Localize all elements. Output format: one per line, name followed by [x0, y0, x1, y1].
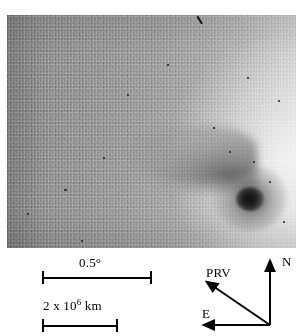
- field-star: [269, 181, 271, 183]
- angular-scale-cap-right: [150, 271, 152, 284]
- field-star: [127, 94, 129, 96]
- comet-figure: 0.5° 2 x 106 km N E PRV: [0, 0, 304, 336]
- field-star: [167, 64, 169, 66]
- comet-nucleus: [236, 187, 264, 211]
- linear-scale-cap-right: [116, 319, 118, 332]
- linear-scale-label: 2 x 106 km: [43, 298, 102, 312]
- linear-scale-bar: [42, 325, 118, 327]
- prv-label: PRV: [206, 266, 231, 279]
- linear-scale-exponent: 6: [77, 297, 82, 307]
- field-star: [103, 157, 105, 159]
- prv-arrow: [207, 282, 270, 325]
- linear-scale-mantissa: 2 x 10: [43, 298, 77, 313]
- field-star: [213, 127, 215, 129]
- angular-scale-bar: [42, 277, 152, 279]
- field-star: [253, 161, 255, 163]
- field-star: [247, 77, 249, 79]
- north-label: N: [282, 255, 292, 268]
- angular-scale-label: 0.5°: [79, 256, 101, 269]
- sky-image: [7, 15, 296, 248]
- angular-scale-cap-left: [42, 271, 44, 284]
- field-star: [27, 213, 29, 215]
- east-label: E: [202, 307, 210, 320]
- linear-scale-cap-left: [42, 319, 44, 332]
- field-star: [278, 100, 280, 102]
- field-star: [64, 189, 67, 191]
- linear-scale-unit: km: [85, 298, 102, 313]
